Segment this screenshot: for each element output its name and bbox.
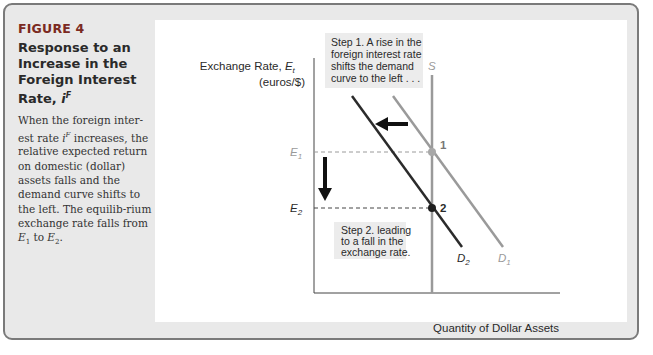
d2-label: D2 bbox=[457, 252, 470, 267]
down-arrow-icon bbox=[318, 157, 332, 201]
exchange-rate-chart: Step 1. A rise in the foreign interest r… bbox=[0, 0, 653, 355]
e2-tick-label: E2 bbox=[290, 202, 303, 217]
y-axis-label: Exchange Rate, Et (euros/$) bbox=[200, 60, 305, 88]
equilibrium-point-2 bbox=[428, 204, 436, 212]
equilibrium-point-1 bbox=[428, 148, 436, 156]
step2-text: Step 2. leading to a fall in the exchang… bbox=[341, 224, 414, 258]
supply-label: S bbox=[428, 60, 436, 72]
e1-tick-label: E1 bbox=[290, 146, 302, 161]
point-1-label: 1 bbox=[440, 139, 447, 151]
x-axis-label: Quantity of Dollar Assets bbox=[433, 322, 559, 334]
d1-label: D1 bbox=[498, 252, 511, 267]
left-arrow-icon bbox=[375, 117, 408, 131]
step1-text: Step 1. A rise in the foreign interest r… bbox=[331, 36, 424, 84]
point-2-label: 2 bbox=[440, 202, 446, 214]
